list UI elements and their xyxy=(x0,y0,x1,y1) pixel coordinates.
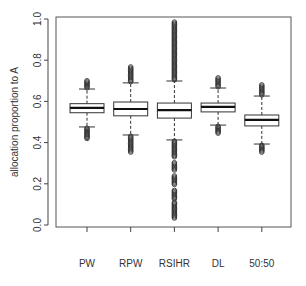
y-axis: 0.00.20.40.60.81.0 xyxy=(32,12,48,232)
box-DL xyxy=(201,76,235,136)
low-outliers xyxy=(216,124,221,135)
x-tick-label: PW xyxy=(79,258,96,269)
y-tick-label: 0.8 xyxy=(32,53,43,67)
low-outliers xyxy=(85,126,90,141)
y-tick-label: 0.6 xyxy=(32,94,43,108)
boxplot-chart: 0.00.20.40.60.81.0 PWRPWRSIHRDL50:50 all… xyxy=(0,0,306,286)
low-outliers xyxy=(128,134,133,154)
box-PW xyxy=(70,79,104,141)
low-outliers xyxy=(172,139,177,220)
x-tick-label: RSIHR xyxy=(159,258,190,269)
box-RSIHR xyxy=(157,20,191,221)
x-axis: PWRPWRSIHRDL50:50 xyxy=(79,227,275,269)
x-tick-label: RPW xyxy=(119,258,143,269)
y-tick-label: 1.0 xyxy=(32,12,43,26)
low-outliers xyxy=(260,143,265,154)
x-tick-label: 50:50 xyxy=(249,258,274,269)
y-tick-label: 0.2 xyxy=(32,176,43,190)
high-outliers xyxy=(216,76,221,89)
high-outliers xyxy=(128,65,133,84)
box-RPW xyxy=(114,65,148,155)
high-outliers xyxy=(172,20,177,82)
x-tick-label: DL xyxy=(212,258,225,269)
boxes-group xyxy=(70,20,279,221)
high-outliers xyxy=(260,83,265,97)
y-axis-label: allocation proportion to A xyxy=(9,67,20,177)
y-tick-label: 0.4 xyxy=(32,135,43,149)
plot-svg: 0.00.20.40.60.81.0 PWRPWRSIHRDL50:50 all… xyxy=(0,0,306,286)
high-outliers xyxy=(85,79,90,91)
box-50-50 xyxy=(245,83,279,155)
y-tick-label: 0.0 xyxy=(32,218,43,232)
